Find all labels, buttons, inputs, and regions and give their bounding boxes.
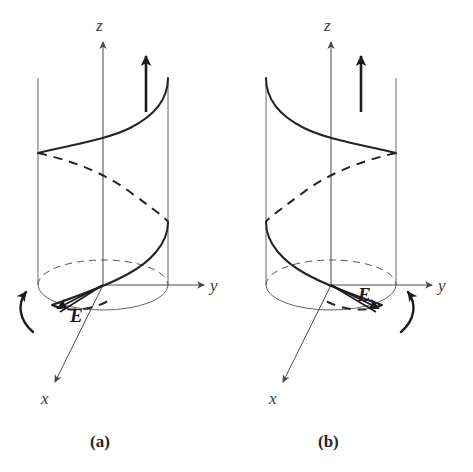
e-field-label: E: [357, 284, 371, 305]
z-axis-label: z: [95, 16, 103, 35]
circular-polarization-figure: z y x: [0, 0, 473, 472]
x-axis-b: x: [268, 285, 331, 408]
x-axis-line: [283, 285, 331, 382]
y-axis-label: y: [436, 276, 446, 295]
z-axis-b: z: [323, 16, 331, 285]
x-axis-a: x: [40, 285, 103, 408]
x-axis-label: x: [268, 389, 277, 408]
figure-container: z y x: [0, 0, 473, 472]
rotation-arrow: [401, 292, 413, 332]
e-field-vector-b: E: [331, 284, 378, 312]
panel-caption-a: (a): [90, 432, 110, 451]
z-axis-a: z: [95, 16, 103, 285]
panel-a: z y x: [21, 16, 218, 451]
panel-caption-b: (b): [318, 432, 339, 451]
x-axis-label: x: [40, 389, 49, 408]
y-axis-label: y: [208, 276, 218, 295]
rotation-arrow: [21, 292, 33, 332]
panel-b: z y x: [266, 16, 446, 451]
e-field-label: E: [69, 305, 83, 326]
z-axis-label: z: [323, 16, 331, 35]
